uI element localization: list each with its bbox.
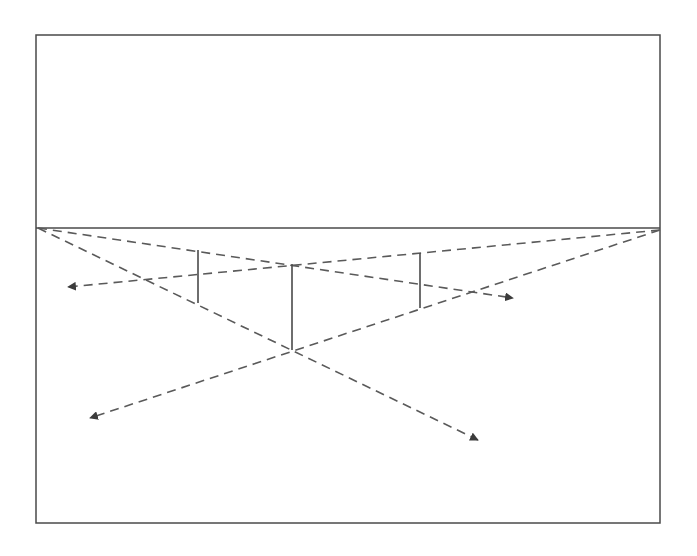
frame-border [36, 35, 660, 523]
diagram-canvas [0, 0, 697, 556]
dashed-rays [38, 228, 660, 440]
perspective-diagram [0, 0, 697, 556]
vertical-edges [198, 250, 420, 350]
vp-left-to-bottom-right-arrow [38, 228, 478, 440]
